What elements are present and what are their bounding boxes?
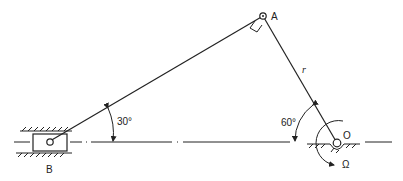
pin-o xyxy=(333,139,341,147)
label-r: r xyxy=(302,64,306,75)
label-a: A xyxy=(271,11,278,22)
label-o: O xyxy=(343,130,351,141)
slider-crank-diagram: A B O r 30° 60° Ω xyxy=(0,0,403,181)
label-omega: Ω xyxy=(342,159,350,170)
connecting-rod xyxy=(50,16,263,141)
label-angle-60: 60° xyxy=(281,117,296,128)
slider-guide-bottom xyxy=(16,153,72,157)
label-b: B xyxy=(46,164,53,175)
pin-b xyxy=(47,139,53,145)
label-angle-30: 30° xyxy=(117,116,132,127)
slider-guide-top xyxy=(20,127,72,131)
angle-arc-60 xyxy=(295,105,313,141)
angle-arc-30 xyxy=(108,108,113,141)
